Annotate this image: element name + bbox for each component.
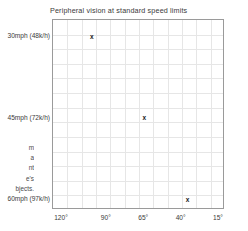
- data-point-marker: x: [184, 196, 191, 203]
- side-annotation-line: nt: [0, 163, 34, 173]
- side-annotation-text: mante'sbjects.: [0, 143, 34, 194]
- side-annotation-line: a: [0, 153, 34, 163]
- chart-title: Peripheral vision at standard speed limi…: [50, 6, 187, 15]
- gridline-vertical: [182, 20, 183, 208]
- x-axis-tick-label: 40°: [176, 214, 186, 221]
- data-point-marker: x: [88, 33, 95, 40]
- y-axis-tick-label: 30mph (48k/h): [0, 32, 50, 39]
- gridline-horizontal: [53, 64, 223, 65]
- gridline-vertical: [67, 20, 68, 208]
- gridline-horizontal: [53, 108, 223, 109]
- gridline-horizontal: [53, 137, 223, 138]
- gridline-vertical: [96, 20, 97, 208]
- gridline-vertical: [125, 20, 126, 208]
- x-axis-tick-label: 65°: [138, 214, 148, 221]
- y-axis-tick-label: 45mph (72k/h): [0, 113, 50, 120]
- x-axis-tick-label: 120°: [54, 214, 68, 221]
- side-annotation-line: e's: [0, 174, 34, 184]
- side-annotation-line: m: [0, 143, 34, 153]
- gridline-horizontal: [53, 195, 223, 196]
- gridline-horizontal: [53, 35, 223, 36]
- y-axis-tick-label: 60mph (97k/h): [0, 195, 50, 202]
- gridline-vertical: [153, 20, 154, 208]
- gridline-horizontal: [53, 78, 223, 79]
- side-annotation-line: bjects.: [0, 184, 34, 194]
- gridline-horizontal: [53, 49, 223, 50]
- gridline-horizontal: [53, 93, 223, 94]
- gridline-vertical: [168, 20, 169, 208]
- x-axis-tick-label: 90°: [101, 214, 111, 221]
- gridline-vertical: [82, 20, 83, 208]
- data-point-marker: x: [141, 114, 148, 121]
- gridline-horizontal: [53, 122, 223, 123]
- plot-area: xxx: [52, 19, 224, 209]
- gridline-vertical: [110, 20, 111, 208]
- x-axis-tick-label: 15°: [213, 214, 223, 221]
- gridline-horizontal: [53, 152, 223, 153]
- gridline-horizontal: [53, 181, 223, 182]
- gridline-horizontal: [53, 166, 223, 167]
- gridline-vertical: [211, 20, 212, 208]
- gridline-vertical: [196, 20, 197, 208]
- chart-page: Peripheral vision at standard speed limi…: [0, 0, 248, 231]
- gridlines: [53, 20, 223, 208]
